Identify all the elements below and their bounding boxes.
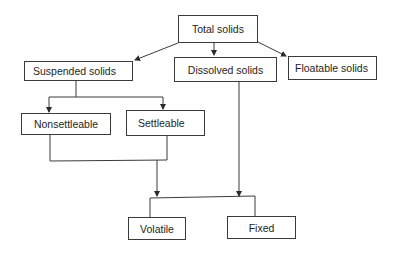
node-nonsettleable: Nonsettleable [21,113,111,135]
node-volatile: Volatile [128,217,186,240]
node-label: Suspended solids [25,65,132,77]
node-label: Volatile [129,223,185,235]
node-label: Dissolved solids [175,64,276,76]
node-label: Settleable [127,117,204,129]
node-label: Fixed [228,222,295,234]
edge-suspended-settleable [76,97,163,109]
edge-total-suspended [135,43,178,60]
node-total-solids: Total solids [178,15,258,43]
edge-split-volatile-fixed [150,196,255,217]
node-suspended-solids: Suspended solids [24,61,133,81]
edge-merge [50,135,167,161]
node-dissolved-solids: Dissolved solids [174,57,277,82]
node-fixed: Fixed [227,216,296,239]
node-label: Nonsettleable [22,118,110,130]
edge-total-floatable [258,42,286,56]
node-label: Total solids [179,23,257,35]
edge-suspended-nonsettleable [49,81,76,112]
node-floatable-solids: Floatable solids [288,56,377,80]
node-settleable: Settleable [126,110,205,136]
node-label: Floatable solids [289,62,376,74]
